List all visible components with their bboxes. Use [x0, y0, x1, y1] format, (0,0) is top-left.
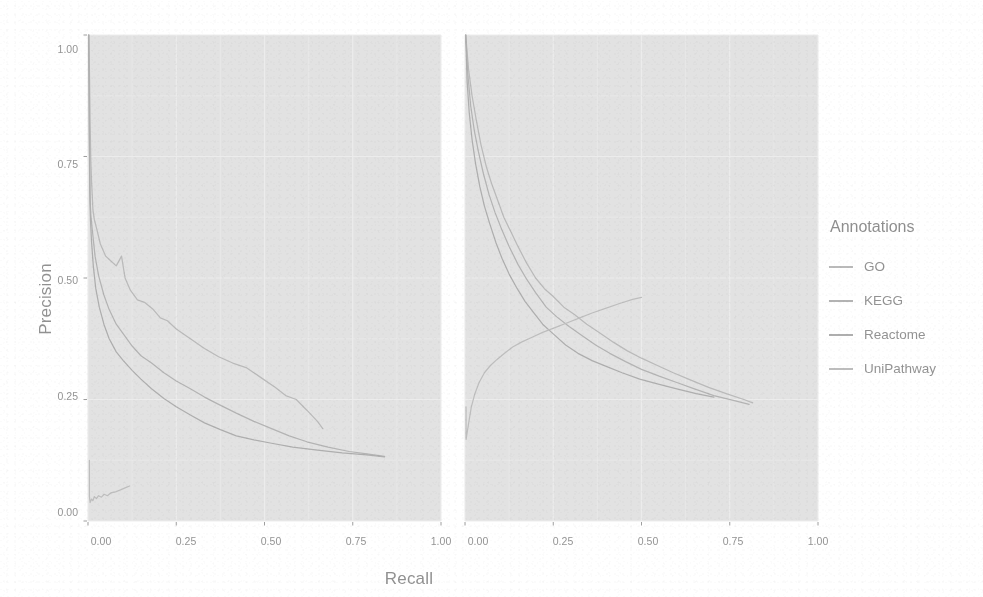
precision-recall-figure: Precision Recall 1.00 0.75 0.50 0.25 0.0…: [0, 0, 983, 597]
legend-line-icon: [828, 258, 854, 275]
legend-line-icon: [828, 292, 854, 309]
legend-item-label: Reactome: [864, 327, 926, 342]
legend: Annotations GOKEGGReactomeUniPathway: [828, 218, 978, 388]
legend-item-kegg[interactable]: KEGG: [828, 286, 978, 314]
facet-panel-left: [88, 35, 441, 521]
legend-item-label: GO: [864, 259, 885, 274]
legend-line-icon: [828, 360, 854, 377]
legend-item-unipathway[interactable]: UniPathway: [828, 354, 978, 382]
facet-panel-right: [465, 35, 818, 521]
legend-item-go[interactable]: GO: [828, 252, 978, 280]
legend-title: Annotations: [830, 218, 978, 236]
legend-item-reactome[interactable]: Reactome: [828, 320, 978, 348]
legend-items: GOKEGGReactomeUniPathway: [828, 252, 978, 382]
legend-item-label: KEGG: [864, 293, 903, 308]
legend-item-label: UniPathway: [864, 361, 936, 376]
legend-line-icon: [828, 326, 854, 343]
